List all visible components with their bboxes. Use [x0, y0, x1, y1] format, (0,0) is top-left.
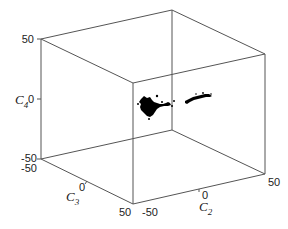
back-bottom-right-edge [172, 130, 265, 174]
y-tick-label-neg50: -50 [21, 162, 37, 174]
z-axis-label: C4 [15, 92, 29, 110]
top-front-left-edge [41, 39, 133, 83]
x-axis-label: C2 [199, 199, 213, 217]
back-bottom-left-edge [41, 130, 172, 159]
top-back-left-edge [41, 10, 172, 39]
tick-labels: 50 0 -50 -50 0 50 -50 0 50 [21, 33, 280, 218]
data-cluster-2 [185, 92, 212, 104]
top-front-right-edge [133, 54, 265, 83]
scatter-3d-plot: 50 0 -50 -50 0 50 -50 0 50 C4 C3 C2 [0, 0, 288, 229]
x-tick-label-50: 50 [268, 176, 280, 188]
top-back-right-edge [172, 10, 265, 54]
y-tick-label-0: 0 [79, 181, 85, 193]
z-tick-label-0: 0 [28, 93, 34, 105]
data-cluster-1 [137, 95, 175, 120]
x-tick-label-neg50: -50 [142, 206, 158, 218]
z-tick-label-50: 50 [22, 33, 34, 45]
y-axis-label: C3 [66, 189, 80, 207]
axis-labels: C4 C3 C2 [15, 92, 213, 217]
y-tick-label-50: 50 [119, 206, 131, 218]
